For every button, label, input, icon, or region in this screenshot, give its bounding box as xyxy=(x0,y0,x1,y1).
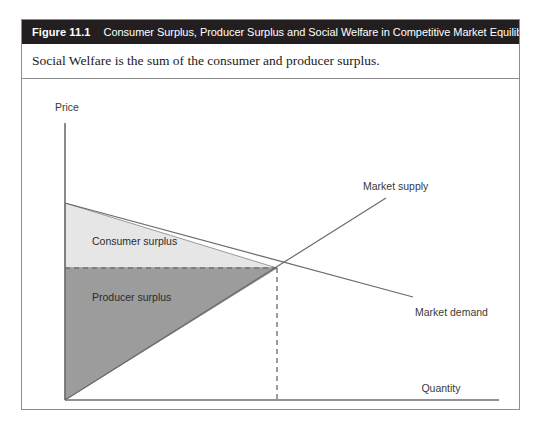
chart-plot-area: Price Quantity Market supply Market dema… xyxy=(22,79,519,410)
figure-caption-row: Social Welfare is the sum of the consume… xyxy=(22,44,519,79)
price-axis-label: Price xyxy=(55,101,79,113)
market-supply-label: Market supply xyxy=(363,180,429,192)
figure-caption-text: Social Welfare is the sum of the consume… xyxy=(22,53,380,69)
figure-title: Consumer Surplus, Producer Surplus and S… xyxy=(91,26,519,38)
figure-number: Figure 11.1 xyxy=(22,26,91,38)
market-demand-label: Market demand xyxy=(415,306,488,318)
figure-container: Figure 11.1 Consumer Surplus, Producer S… xyxy=(21,19,520,410)
economics-supply-demand-chart: Price Quantity Market supply Market dema… xyxy=(22,79,519,410)
equilibrium-quantity-label: Equilibrium quantity xyxy=(231,409,323,410)
producer-surplus-label: Producer surplus xyxy=(92,291,171,303)
figure-header-bar: Figure 11.1 Consumer Surplus, Producer S… xyxy=(22,20,519,44)
quantity-axis-label: Quantity xyxy=(421,382,461,394)
consumer-surplus-label: Consumer surplus xyxy=(92,235,177,247)
